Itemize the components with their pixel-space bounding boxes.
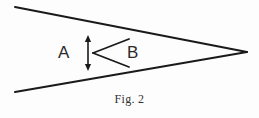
region-label-a: A bbox=[58, 44, 70, 61]
figure-caption: Fig. 2 bbox=[0, 92, 259, 106]
figure-2-diagram: A B Fig. 2 bbox=[0, 0, 259, 118]
region-label-b: B bbox=[127, 44, 139, 61]
